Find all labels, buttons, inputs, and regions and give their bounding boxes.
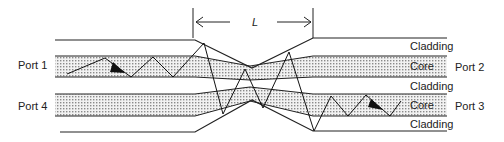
core-bottom-label: Core	[410, 99, 434, 111]
port-1-label: Port 1	[18, 59, 47, 71]
port-3-label: Port 3	[455, 100, 484, 112]
core-lower	[55, 87, 447, 116]
port-2-label: Port 2	[455, 61, 484, 73]
length-label: L	[252, 16, 258, 28]
coupler-diagram: L Port 1 Port 4 Port 2 Port 3 Cladding C…	[0, 0, 504, 142]
cladding-mid-label: Cladding	[410, 80, 453, 92]
cladding-top-label: Cladding	[410, 40, 453, 52]
core-top-label: Core	[410, 60, 434, 72]
cladding-bottom-label: Cladding	[410, 118, 453, 130]
port-4-label: Port 4	[18, 100, 47, 112]
cladding-outline	[55, 38, 447, 132]
